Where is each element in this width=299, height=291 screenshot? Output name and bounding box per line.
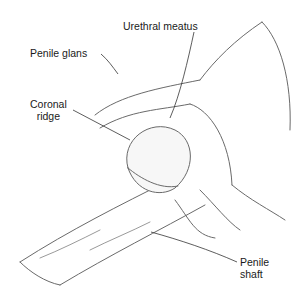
illustration: [0, 0, 299, 291]
label-coronal-ridge: Coronal ridge: [30, 98, 67, 122]
label-penile-shaft: Penile shaft: [240, 256, 269, 280]
label-coronal-ridge-line1: Coronal: [30, 98, 67, 110]
label-penile-shaft-line1: Penile: [240, 256, 269, 268]
diagram-canvas: Urethral meatus Penile glans Coronal rid…: [0, 0, 299, 291]
label-coronal-ridge-line2: ridge: [30, 110, 67, 122]
label-penile-shaft-line2: shaft: [240, 268, 269, 280]
label-penile-glans: Penile glans: [30, 47, 87, 59]
label-urethral-meatus: Urethral meatus: [123, 20, 198, 32]
